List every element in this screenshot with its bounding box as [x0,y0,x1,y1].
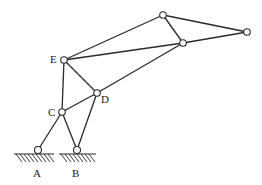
link-d-mid [97,43,183,93]
link-top-mid [163,15,183,43]
ground-support-b [59,154,96,162]
link-c-e [62,60,64,112]
joint-c [59,109,66,116]
links [38,15,247,150]
link-mid-right [183,32,247,43]
label-b: B [72,167,79,179]
joint-b [74,147,81,154]
label-e: E [50,53,57,65]
link-e-d [64,60,97,93]
linkage-diagram: A B C D E [0,0,262,185]
joint-top [160,12,167,19]
ground-support-a [14,154,54,162]
joint-a [35,147,42,154]
joint-e [61,57,68,64]
label-c: C [48,106,55,118]
label-d: D [101,93,109,105]
joints [35,12,251,154]
joint-d [94,90,101,97]
joint-mid-right [180,40,187,47]
joint-right [244,29,251,36]
label-a: A [33,167,41,179]
link-top-right [163,15,247,32]
link-b-c [62,112,77,150]
